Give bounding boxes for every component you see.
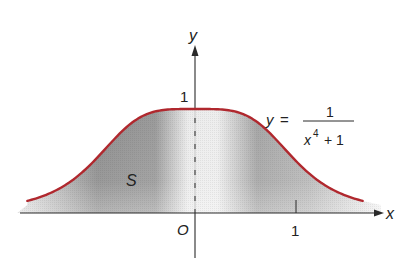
origin-label: O <box>177 221 189 238</box>
equation-numerator: 1 <box>326 104 334 120</box>
function-graph: y 1 S O 1 x y = 1 x 4 + 1 <box>0 0 414 274</box>
equation-equals: = <box>280 111 289 128</box>
y-axis-arrow-icon <box>192 45 199 56</box>
equation-lhs: y <box>265 111 275 128</box>
y-tick-label: 1 <box>180 88 188 105</box>
x-axis-label: x <box>385 205 395 222</box>
region-label: S <box>126 172 137 189</box>
x-tick-label: 1 <box>291 222 299 239</box>
equation-denominator-base: x <box>303 132 312 148</box>
equation-denominator-rest: + 1 <box>324 132 344 148</box>
shaded-region <box>17 109 381 213</box>
equation-denominator-exponent: 4 <box>313 128 319 139</box>
y-axis-label: y <box>188 27 198 44</box>
